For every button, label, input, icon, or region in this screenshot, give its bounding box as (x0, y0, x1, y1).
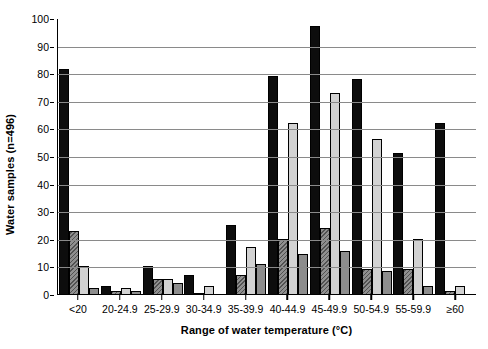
bar (236, 275, 246, 294)
bar (330, 93, 340, 294)
y-tick-label: 20 (37, 234, 49, 246)
bar (362, 269, 372, 294)
gridline (58, 47, 476, 48)
y-tick-label: 30 (37, 206, 49, 218)
bar (59, 69, 69, 294)
bar (101, 286, 111, 294)
gridline (58, 185, 476, 186)
bar (445, 291, 455, 294)
y-tick-mark (50, 267, 54, 268)
y-tick-mark (50, 102, 54, 103)
bar (310, 26, 320, 294)
y-axis-ticks: 0102030405060708090100 (22, 19, 54, 295)
gridline (58, 267, 476, 268)
x-tick-mark (371, 295, 373, 300)
x-tick-cell (350, 295, 392, 301)
x-tick-mark (245, 295, 247, 300)
y-tick-label: 60 (37, 123, 49, 135)
plot-area (57, 19, 476, 295)
y-tick-label: 40 (37, 179, 49, 191)
y-tick-mark (50, 295, 54, 296)
gridline (58, 74, 476, 75)
y-axis-title: Water samples (n=496) (0, 0, 20, 349)
x-tick-label: 50-54.9 (350, 303, 392, 319)
y-tick-mark (50, 74, 54, 75)
y-tick-mark (50, 47, 54, 48)
bar (89, 288, 99, 294)
bar (204, 286, 214, 294)
x-tick-mark (287, 295, 289, 300)
y-tick-mark (50, 157, 54, 158)
y-tick-mark (50, 19, 54, 20)
gridline (58, 129, 476, 130)
x-tick-mark (454, 295, 456, 300)
bar (131, 291, 141, 294)
gridline (58, 157, 476, 158)
x-tick-mark (412, 295, 414, 300)
bar (455, 286, 465, 294)
x-tick-label: 20-24.9 (99, 303, 141, 319)
x-tick-cell (99, 295, 141, 301)
x-tick-mark (203, 295, 205, 300)
bar (194, 293, 204, 294)
x-tick-cell (392, 295, 434, 301)
bar (173, 283, 183, 294)
x-tick-mark (329, 295, 331, 300)
x-tick-label: 35-39.9 (225, 303, 267, 319)
gridline (58, 102, 476, 103)
bar (298, 254, 308, 294)
x-tick-label: 55-59.9 (392, 303, 434, 319)
x-tick-cell (183, 295, 225, 301)
bar (143, 266, 153, 294)
bar (226, 225, 236, 294)
y-tick-label: 70 (37, 96, 49, 108)
bar (393, 153, 403, 294)
bar (352, 79, 362, 294)
bar (320, 228, 330, 294)
bar (111, 291, 121, 294)
x-axis-ticks (57, 295, 476, 301)
x-tick-label: <20 (57, 303, 99, 319)
x-tick-mark (161, 295, 163, 300)
x-axis-title: Range of water temperature (°C) (57, 324, 476, 336)
bar (423, 286, 433, 294)
x-tick-mark (119, 295, 121, 300)
gridline (58, 212, 476, 213)
x-tick-label: 45-49.9 (308, 303, 350, 319)
y-tick-mark (50, 185, 54, 186)
y-tick-label: 10 (37, 261, 49, 273)
y-tick-mark (50, 240, 54, 241)
bar (153, 279, 163, 294)
x-tick-cell (267, 295, 309, 301)
y-tick-label: 0 (43, 289, 49, 301)
x-tick-label: 40-44.9 (267, 303, 309, 319)
bar-chart-figure: Water samples (n=496) 010203040506070809… (0, 0, 488, 349)
y-tick-label: 50 (37, 151, 49, 163)
x-axis-labels: <2020-24.925-29.930-34.935-39.940-44.945… (57, 303, 476, 319)
y-tick-mark (50, 212, 54, 213)
bar (403, 269, 413, 294)
x-tick-label: 25-29.9 (141, 303, 183, 319)
x-tick-mark (77, 295, 79, 300)
x-tick-cell (57, 295, 99, 301)
bar (121, 288, 131, 294)
bar (79, 266, 89, 294)
x-tick-cell (434, 295, 476, 301)
bar (340, 251, 350, 294)
bar (246, 247, 256, 294)
bar (382, 271, 392, 294)
bar (184, 275, 194, 294)
x-tick-cell (141, 295, 183, 301)
x-tick-cell (308, 295, 350, 301)
y-tick-mark (50, 129, 54, 130)
x-tick-label: 30-34.9 (183, 303, 225, 319)
gridline (58, 240, 476, 241)
y-tick-label: 100 (31, 13, 49, 25)
y-tick-label: 90 (37, 41, 49, 53)
x-tick-cell (225, 295, 267, 301)
bar (163, 279, 173, 294)
bar (372, 139, 382, 294)
y-tick-label: 80 (37, 68, 49, 80)
x-tick-label: ≥60 (434, 303, 476, 319)
